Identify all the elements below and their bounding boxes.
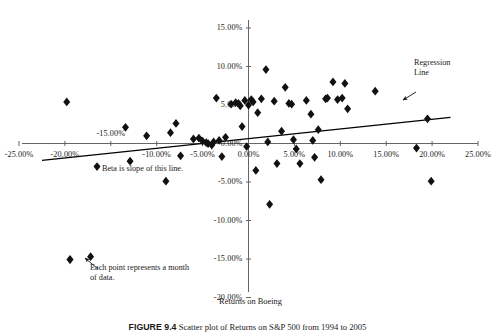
data-point bbox=[264, 138, 271, 147]
y-axis-tick-label: -15.00% bbox=[197, 254, 243, 264]
data-point bbox=[143, 131, 150, 140]
regression-line-annotation-line2: Line bbox=[414, 68, 450, 78]
point-meaning-annotation-line2: of data. bbox=[90, 273, 189, 283]
data-point bbox=[278, 127, 285, 136]
data-point bbox=[266, 200, 273, 209]
point-meaning-annotation: Each point represents a month of data. bbox=[90, 263, 189, 284]
data-point bbox=[341, 79, 348, 88]
data-point bbox=[318, 175, 325, 184]
data-point bbox=[282, 83, 289, 92]
data-point bbox=[428, 177, 435, 186]
beta-annotation-text: Beta is slope of this line. bbox=[102, 164, 183, 174]
x-axis-tick-label: 5.00% bbox=[270, 150, 318, 160]
figure-caption-label: FIGURE 9.4 bbox=[129, 322, 177, 332]
data-point bbox=[329, 78, 336, 87]
y-axis-tick-label: 10.00% bbox=[197, 62, 243, 72]
figure-caption-text: Scatter plot of Returns on S&P 500 from … bbox=[179, 322, 367, 332]
y-axis-tick-label: 0.00% bbox=[197, 139, 243, 149]
data-point bbox=[271, 97, 278, 106]
y-axis-tick-label: 15.00% bbox=[197, 23, 243, 33]
data-point bbox=[252, 166, 259, 175]
y-axis-tick-label: -10.00% bbox=[197, 216, 243, 226]
sample-point-marker bbox=[66, 255, 73, 264]
x-axis-title: Returns on Boeing bbox=[198, 297, 303, 306]
data-point bbox=[307, 110, 314, 119]
data-point bbox=[87, 252, 94, 261]
data-point bbox=[262, 65, 269, 74]
data-point bbox=[172, 119, 179, 128]
point-meaning-annotation-line1: Each point represents a month bbox=[90, 263, 189, 273]
data-point bbox=[239, 122, 246, 131]
x-axis-tick-label: -5.00% bbox=[179, 150, 227, 160]
beta-annotation: Beta is slope of this line. bbox=[102, 164, 183, 174]
x-axis-tick-label: -20.00% bbox=[41, 150, 89, 160]
regression-line-annotation-line1: Regression bbox=[414, 58, 450, 68]
data-point bbox=[273, 159, 280, 168]
x-axis-tick-label: 20.00% bbox=[408, 150, 456, 160]
data-point bbox=[94, 162, 101, 171]
data-point bbox=[254, 108, 261, 117]
figure-caption: FIGURE 9.4 Scatter plot of Returns on S&… bbox=[0, 322, 495, 332]
data-point bbox=[424, 114, 431, 123]
regression-line-arrow bbox=[403, 92, 416, 100]
scatter-plot-canvas bbox=[0, 0, 495, 333]
data-point bbox=[344, 104, 351, 113]
x-axis-tick-label: 15.00% bbox=[362, 150, 410, 160]
x-axis-tick-label: 10.00% bbox=[316, 150, 364, 160]
x-axis-tick-label: -10.00% bbox=[133, 150, 181, 160]
data-point bbox=[372, 87, 379, 96]
figure-container: 15.00%10.00%5.00%0.00%-5.00%-10.00%-15.0… bbox=[0, 0, 495, 333]
data-point bbox=[258, 94, 265, 103]
y-axis-tick-label: -5.00% bbox=[197, 177, 243, 187]
regression-line-annotation: Regression Line bbox=[414, 58, 450, 79]
x-axis-tick-label: 0.00% bbox=[225, 150, 273, 160]
data-point bbox=[290, 135, 297, 144]
x-axis-tick-label: -15.00% bbox=[87, 129, 135, 139]
data-point bbox=[315, 125, 322, 134]
data-point bbox=[296, 159, 303, 168]
x-axis-tick-label: 25.00% bbox=[454, 150, 495, 160]
y-axis-tick-label: 5.00% bbox=[197, 100, 243, 110]
x-axis-tick-label: -25.00% bbox=[0, 150, 43, 160]
data-point bbox=[162, 177, 169, 186]
data-point bbox=[167, 128, 174, 137]
data-point bbox=[63, 98, 70, 107]
data-point bbox=[303, 96, 310, 105]
